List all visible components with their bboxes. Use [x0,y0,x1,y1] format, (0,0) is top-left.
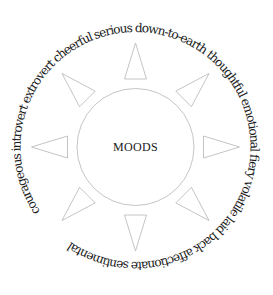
ray-triangle [204,136,240,158]
center-label: MOODS [113,140,158,154]
ray-triangle [125,43,147,79]
ray-triangle [176,74,209,107]
ray-triangle [32,136,68,158]
ray-triangle [125,215,147,251]
moods-diagram: MOODS courageous introvert extrovert che… [0,0,273,295]
ray-triangle [62,187,95,220]
ray-triangle [62,74,95,107]
ray-triangle [176,187,209,220]
